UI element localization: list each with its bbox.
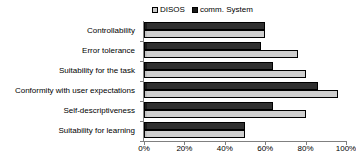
value-axis-tick-label: 100%	[336, 145, 356, 153]
bar-disos	[144, 90, 338, 98]
bar-disos	[144, 110, 306, 118]
bar-group	[144, 82, 346, 100]
legend-entry-disos: DISOS	[152, 6, 185, 14]
bar-comm-system	[144, 82, 318, 90]
bar-group	[144, 62, 346, 80]
category-axis-tick	[140, 141, 143, 142]
chart-legend: DISOS comm. System	[152, 3, 253, 16]
value-axis-tick-label: 60%	[257, 145, 273, 153]
value-axis-tick-labels: 0%20%40%60%80%100%	[143, 145, 356, 157]
category-axis-tick	[140, 41, 143, 42]
category-label: Self-descriptiveness	[63, 107, 135, 115]
dark-square-icon	[192, 7, 198, 13]
value-axis-tick-label: 40%	[217, 145, 233, 153]
value-axis-tick-label: 80%	[298, 145, 314, 153]
category-label: Suitability for the task	[59, 67, 135, 75]
bar-group	[144, 42, 346, 60]
category-axis-tick	[140, 101, 143, 102]
horizontal-bar-chart: DISOS comm. System ControllabilityError …	[0, 0, 356, 161]
category-axis-tick	[140, 61, 143, 62]
bar-disos	[144, 70, 306, 78]
bar-group	[144, 102, 346, 120]
bar-comm-system	[144, 62, 273, 70]
bar-group	[144, 122, 346, 140]
legend-label-comm-system: comm. System	[200, 6, 253, 14]
category-label: Conformity with user expectations	[15, 87, 135, 95]
category-axis-tick	[140, 121, 143, 122]
bar-comm-system	[144, 42, 261, 50]
bar-disos	[144, 130, 245, 138]
value-axis-line	[143, 141, 346, 142]
bar-disos	[144, 50, 298, 58]
category-label: Error tolerance	[82, 47, 135, 55]
bar-comm-system	[144, 122, 245, 130]
plot-area	[143, 21, 346, 141]
value-axis-tick-label: 0%	[138, 145, 150, 153]
bar-group	[144, 22, 346, 40]
light-square-icon	[152, 7, 158, 13]
legend-entry-comm-system: comm. System	[192, 6, 253, 14]
category-label: Controllability	[87, 27, 135, 35]
category-axis-tick	[140, 81, 143, 82]
bar-disos	[144, 30, 265, 38]
category-axis-labels: ControllabilityError toleranceSuitabilit…	[0, 21, 139, 141]
bar-comm-system	[144, 102, 273, 110]
value-axis-tick-label: 20%	[176, 145, 192, 153]
category-label: Suitability for learning	[59, 127, 135, 135]
legend-label-disos: DISOS	[160, 6, 185, 14]
bar-comm-system	[144, 22, 265, 30]
